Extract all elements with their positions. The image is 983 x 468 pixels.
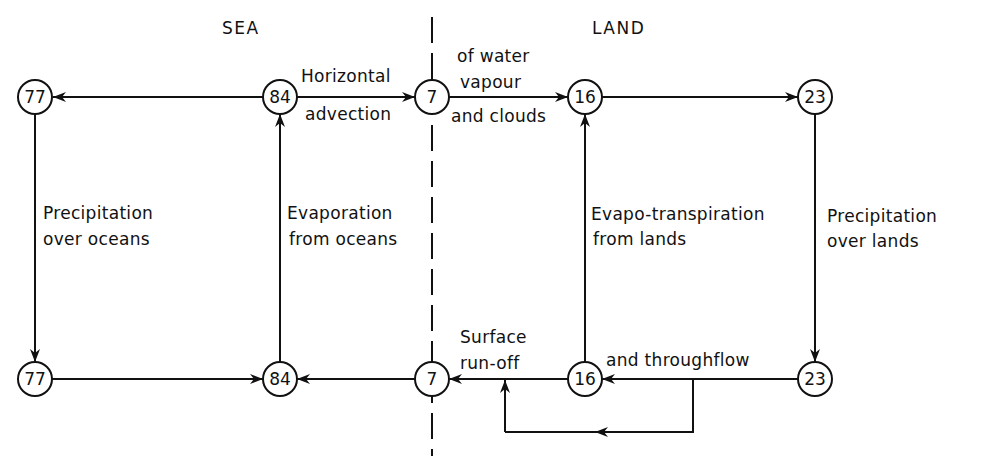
svg-text:23: 23	[804, 87, 826, 107]
node-land-bottom-left: 16	[568, 362, 602, 396]
label-evapo-lands-1: Evapo-transpiration	[591, 204, 765, 225]
svg-text:16: 16	[574, 369, 596, 389]
svg-text:77: 77	[24, 369, 46, 389]
region-label-sea: SEA	[222, 18, 260, 39]
svg-text:84: 84	[269, 369, 291, 389]
node-land-top-right: 23	[798, 80, 832, 114]
node-boundary-bottom: 7	[415, 362, 449, 396]
label-throughflow: and throughflow	[606, 350, 750, 371]
region-label-land: LAND	[592, 18, 645, 39]
svg-text:7: 7	[427, 87, 438, 107]
label-evapo-lands-2: from lands	[593, 229, 687, 250]
label-vapour: vapour	[460, 72, 521, 93]
label-precip-lands-1: Precipitation	[827, 206, 937, 227]
label-precip-lands-2: over lands	[827, 231, 919, 252]
svg-text:23: 23	[804, 369, 826, 389]
node-boundary-top: 7	[415, 80, 449, 114]
label-surface: Surface	[460, 327, 527, 348]
svg-text:16: 16	[574, 87, 596, 107]
svg-text:84: 84	[269, 87, 291, 107]
svg-text:7: 7	[427, 369, 438, 389]
label-advection: advection	[305, 104, 391, 125]
node-land-bottom-right: 23	[798, 362, 832, 396]
node-sea-top-right: 84	[263, 80, 297, 114]
svg-text:77: 77	[24, 87, 46, 107]
label-evap-oceans-1: Evaporation	[287, 203, 393, 224]
label-runoff: run-off	[460, 353, 519, 374]
label-precip-oceans-1: Precipitation	[43, 203, 153, 224]
label-horizontal: Horizontal	[301, 66, 391, 87]
label-evap-oceans-2: from oceans	[289, 229, 398, 250]
node-sea-top-left: 77	[18, 80, 52, 114]
node-sea-bottom-right: 84	[263, 362, 297, 396]
label-and-clouds: and clouds	[451, 106, 546, 127]
label-precip-oceans-2: over oceans	[43, 229, 150, 250]
node-sea-bottom-left: 77	[18, 362, 52, 396]
node-land-top-left: 16	[568, 80, 602, 114]
label-of-water: of water	[457, 46, 530, 67]
